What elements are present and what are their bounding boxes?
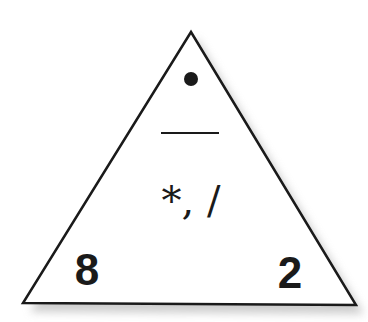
bottom-left-number: 8: [75, 245, 99, 294]
bottom-right-number: 2: [278, 248, 302, 297]
fact-triangle-diagram: *, / 8 2: [0, 0, 368, 322]
top-value-dot: [184, 72, 198, 86]
operations-label: *, /: [162, 177, 221, 223]
